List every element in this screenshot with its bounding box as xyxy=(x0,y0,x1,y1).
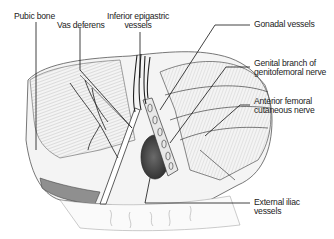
label-genital-branch: Genital branch of genitofemoral nerve xyxy=(254,59,326,78)
label-inferior-epigastric: Inferior epigastric vessels xyxy=(107,12,169,31)
label-line: genitofemoral nerve xyxy=(254,68,326,77)
label-line: vessels xyxy=(254,207,300,216)
label-gonadal-vessels: Gonadal vessels xyxy=(254,20,315,29)
label-line: Vas deferens xyxy=(57,21,105,30)
label-external-iliac: External iliac vessels xyxy=(254,198,300,217)
label-line: Gonadal vessels xyxy=(254,20,315,29)
label-line: Pubic bone xyxy=(14,12,55,21)
label-anterior-femoral: Anterior femoral cutaneous nerve xyxy=(254,97,315,116)
label-vas-deferens: Vas deferens xyxy=(57,21,105,30)
label-line: vessels xyxy=(107,21,169,30)
label-pubic-bone: Pubic bone xyxy=(14,12,55,21)
muscle-left xyxy=(30,60,135,158)
label-line: cutaneous nerve xyxy=(254,106,315,115)
